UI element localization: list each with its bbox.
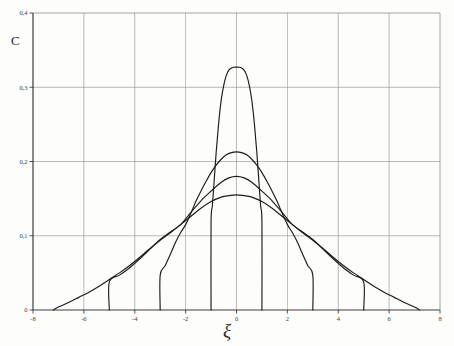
x-tick-label: 0 <box>235 315 238 322</box>
x-tick-label: -2 <box>183 315 188 322</box>
y-tick-label: 0,4 <box>19 9 28 16</box>
x-axis-tick-labels: -8-6-4-202468 <box>30 315 441 322</box>
y-tick-label: 0,1 <box>19 232 27 239</box>
x-tick-label: 2 <box>286 315 289 322</box>
y-tick-label: 0,3 <box>19 84 27 91</box>
y-tick-label: 0,2 <box>19 158 27 165</box>
x-tick-label: -6 <box>81 315 87 322</box>
grid-lines <box>33 13 440 310</box>
y-axis-title: C <box>11 33 20 48</box>
x-tick-label: -8 <box>30 315 35 322</box>
x-tick-label: -4 <box>132 315 138 322</box>
y-tick-label: 0 <box>24 306 27 313</box>
x-axis-title: ξ <box>223 320 232 341</box>
x-tick-label: 6 <box>388 315 392 322</box>
x-tick-label: 8 <box>438 315 441 322</box>
plot-canvas: 0,40,30,20,10 -8-6-4-202468 C ξ <box>0 0 454 346</box>
x-tick-label: 4 <box>337 315 341 322</box>
tick-marks <box>30 13 441 314</box>
chart-figure: 0,40,30,20,10 -8-6-4-202468 C ξ <box>0 0 454 346</box>
y-axis-tick-labels: 0,40,30,20,10 <box>19 9 28 313</box>
